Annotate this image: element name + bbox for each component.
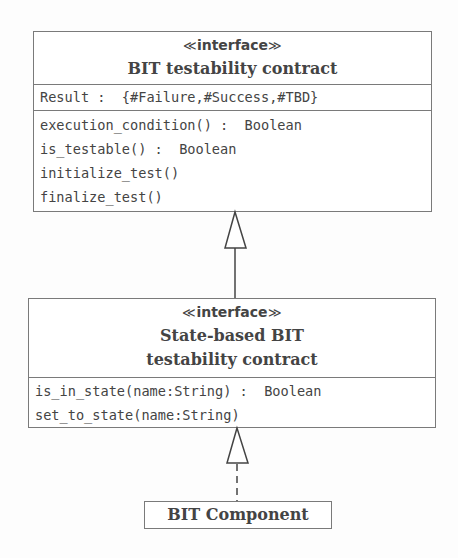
realization-arrow	[227, 428, 248, 501]
hollow-triangle-icon	[227, 428, 248, 463]
hollow-triangle-icon	[225, 212, 246, 248]
generalization-arrow	[225, 212, 246, 298]
relations-layer	[0, 0, 458, 558]
